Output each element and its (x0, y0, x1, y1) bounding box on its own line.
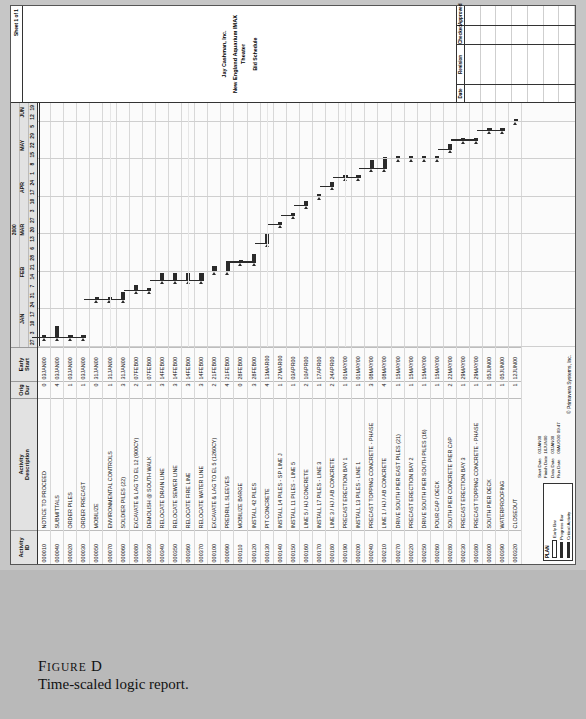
table-row[interactable]: 000160LINE 5 / HJ CONCRETE210APR00 (300, 103, 313, 564)
revision-row[interactable] (465, 26, 481, 44)
early-start-cell: 31JAN00 (90, 347, 102, 381)
sheet-number: Sheet 1 of 1 (11, 6, 23, 102)
activity-id-cell: 000330 (143, 530, 155, 564)
table-row[interactable]: 000280SOUTH PIER CONCRETE PIER CAP222MAY… (444, 103, 457, 564)
table-row[interactable]: 000240PRECAST TOPPING CONCRETE - PHASE30… (365, 103, 378, 564)
table-row[interactable]: 000140INSTALL 14 PILES - SP LINE J127MAR… (274, 103, 287, 564)
table-row[interactable]: 000220PRECAST ERECTION BAY 2115MAY00 (405, 103, 418, 564)
table-row[interactable]: 000020ORDER PILES103JAN00 (64, 103, 77, 564)
activity-id-cell: 000030 (77, 530, 89, 564)
revision-row[interactable] (528, 85, 544, 102)
revision-row[interactable] (528, 45, 544, 84)
revision-rows[interactable] (465, 45, 575, 84)
logic-link-arrow (448, 150, 452, 153)
gantt-row (77, 103, 89, 347)
table-row[interactable]: 000250DRIVE SOUTH PIER SOUTH PILES (16)1… (418, 103, 431, 564)
revision-row[interactable] (512, 26, 528, 44)
revision-row[interactable] (559, 45, 575, 84)
early-start-cell: 03JAN00 (77, 347, 89, 381)
table-row[interactable]: 000030ORDER PRECAST103JAN00 (77, 103, 90, 564)
table-row[interactable]: 000130PIT CONCRETE413MAR00 (261, 103, 274, 564)
orig-dur-cell: 3 (117, 381, 129, 398)
revision-row[interactable] (481, 26, 497, 44)
table-row[interactable]: 000230PRECAST ERECTION BAY 3129MAY00 (457, 103, 470, 564)
table-row[interactable]: 000350RELOCATE SEWER LINE314FEB00 (169, 103, 182, 564)
table-row[interactable]: 000050MOBILIZE031JAN00 (90, 103, 103, 564)
revision-row[interactable] (512, 45, 528, 84)
revision-rows[interactable] (465, 85, 575, 102)
legend-item: Progress Bar (558, 484, 565, 560)
activity-description-cell: PIT CONCRETE (261, 398, 273, 530)
revision-row[interactable] (528, 6, 544, 25)
revision-row[interactable] (544, 6, 560, 25)
date-label: Start Date (537, 454, 544, 478)
timescale-month-label: MAY (20, 140, 26, 151)
table-row[interactable]: 000340RELOCATE DRAIN LINE314FEB00 (156, 103, 169, 564)
table-row[interactable]: 000270DRIVE SOUTH PIER EAST PILES (21)11… (392, 103, 405, 564)
revision-row[interactable] (544, 85, 560, 102)
table-row[interactable]: 000110MOBILIZE BARGE028FEB00 (234, 103, 247, 564)
table-row[interactable]: 000380PRECAST TOPPING CONCRETE - PHASE12… (470, 103, 483, 564)
table-row[interactable]: 000040SUBMITTALS403JAN00 (51, 103, 64, 564)
revision-row[interactable] (559, 6, 575, 25)
table-row[interactable]: 000070ENVIRONMENTAL CONTROLS131JAN00 (103, 103, 116, 564)
revision-row[interactable] (496, 26, 512, 44)
table-row[interactable]: 000120INSTALL 42 PILES328FEB00 (248, 103, 261, 564)
table-row[interactable]: 000170INSTALL 17 PILES - LINE 3117APR00 (313, 103, 326, 564)
table-row[interactable]: 000200INSTALL 13 PILES - LINE 1101MAY00 (352, 103, 365, 564)
table-row[interactable]: 000320CLOSEOUT112JUN00 (509, 103, 522, 564)
early-start-cell: 21FEB00 (221, 347, 233, 381)
revision-row[interactable] (496, 45, 512, 84)
table-row[interactable]: 000180LINE 3 / HJ / AB CONCRETE224APR00 (326, 103, 339, 564)
activity-description-cell: SOLDIER PILES (22) (117, 398, 129, 530)
table-row[interactable]: 000090PREDRILL SLEEVES421FEB00 (221, 103, 234, 564)
revision-row[interactable] (559, 26, 575, 44)
revision-rows[interactable] (465, 6, 575, 25)
revision-row[interactable] (528, 26, 544, 44)
revision-row[interactable] (481, 85, 497, 102)
table-row[interactable]: 000190PRECAST ERECTION BAY 1101MAY00 (339, 103, 352, 564)
revision-row[interactable] (465, 45, 481, 84)
revision-rows[interactable] (465, 26, 575, 44)
table-row[interactable]: 000100EXCAVATE & LAG TO EL 5 (1260CY)221… (208, 103, 221, 564)
report-sheet: Activity ID Activity Description (10, 5, 576, 565)
revision-row[interactable] (559, 85, 575, 102)
revision-row[interactable] (544, 45, 560, 84)
revision-row[interactable] (496, 6, 512, 25)
revision-row[interactable] (465, 6, 481, 25)
revision-row[interactable] (481, 45, 497, 84)
table-row[interactable]: 000330DEMOLISH @ SOUTH WALK107FEB00 (143, 103, 156, 564)
activity-id-cell: 000050 (90, 530, 102, 564)
orig-dur-cell: 2 (444, 381, 456, 398)
timescale-month-band: JANFEBMARAPRMAYJUN (20, 103, 28, 347)
revision-column-header: Approved (457, 6, 465, 25)
revision-row[interactable] (465, 85, 481, 102)
revision-row[interactable] (544, 26, 560, 44)
table-row[interactable]: 000080EXCAVATE & LAG TO EL 12 (900CY)207… (130, 103, 143, 564)
revision-row[interactable] (481, 6, 497, 25)
early-start-cell: 15MAY00 (392, 347, 404, 381)
table-row[interactable]: 000210LINE 1 / HJ / AB CONCRETE408MAY00 (378, 103, 391, 564)
table-row[interactable]: 000390WATERPROOFING105JUN00 (496, 103, 509, 564)
gantt-row (483, 103, 495, 347)
revision-row[interactable] (496, 85, 512, 102)
figure-caption-area: FIGURE D Time-scaled logic report. (0, 570, 586, 719)
table-row[interactable]: 000260POUR CAP / DECK115MAY00 (431, 103, 444, 564)
table-row[interactable]: 000360RELOCATE FIRE LINE314FEB00 (182, 103, 195, 564)
activity-id-cell: 000240 (365, 530, 377, 564)
revision-column: Revision (457, 44, 575, 84)
table-row[interactable]: 000300SOUTH PIER DECK105JUN00 (483, 103, 496, 564)
table-row[interactable]: 000060SOLDIER PILES (22)331JAN00 (117, 103, 130, 564)
early-start-cell: 01MAY00 (352, 347, 364, 381)
revision-row[interactable] (512, 85, 528, 102)
client-name: Jay Cashman, Inc. (221, 30, 227, 77)
revision-column: Approved (457, 6, 575, 25)
logic-link-arrow (278, 225, 282, 228)
timescale-header: 2000 JANFEBMARAPRMAYJUN 2731017243171421… (11, 103, 37, 347)
orig-dur-cell: 2 (208, 381, 220, 398)
early-start-cell: 08MAY00 (365, 347, 377, 381)
table-row[interactable]: 000370RELOCATE WATER LINE314FEB00 (195, 103, 208, 564)
revision-row[interactable] (512, 6, 528, 25)
table-row[interactable]: 000150INSTALL 11 PILES - LINE 5103APR00 (287, 103, 300, 564)
activity-description-cell: ORDER PRECAST (77, 398, 89, 530)
